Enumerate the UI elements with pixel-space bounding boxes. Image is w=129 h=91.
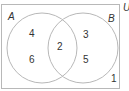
outside-value: 1	[111, 74, 117, 84]
b-only-value: 3	[83, 30, 89, 40]
b-only-value: 5	[83, 55, 89, 65]
intersection-value: 2	[57, 42, 63, 52]
a-only-value: 4	[29, 29, 35, 39]
set-a-circle	[7, 13, 77, 83]
set-b-label: B	[108, 14, 115, 24]
a-only-value: 6	[29, 55, 35, 65]
universe-label: U	[123, 3, 129, 13]
set-a-label: A	[8, 12, 15, 22]
